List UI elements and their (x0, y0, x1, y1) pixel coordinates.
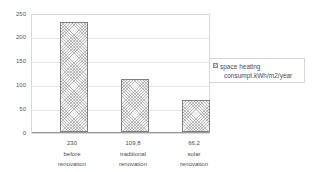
legend-label-line2: consumpt.kWh/m2/year (220, 71, 292, 80)
y-tick-label-0: 0 (2, 130, 26, 136)
y-tick-label-50: 50 (2, 106, 26, 112)
y-tick-label-200: 200 (2, 34, 26, 40)
category-label-traditional-renovation: 109,8 traditional renovation (103, 138, 163, 170)
category-value-2: 109,8 (103, 138, 163, 149)
legend-label-line1: space heating (220, 62, 292, 71)
category-name-3-line2: renovation (164, 159, 224, 170)
legend-swatch-icon (213, 63, 218, 68)
legend-entry-space-heating: space heating consumpt.kWh/m2/year (213, 62, 301, 80)
category-label-solar-renovation: 66,2 solar renovation (164, 138, 224, 170)
category-name-3-line1: solar (164, 149, 224, 160)
chart-legend: space heating consumpt.kWh/m2/year (209, 58, 305, 83)
category-name-1-line2: renovation (42, 159, 102, 170)
bar-solar-renovation[interactable] (182, 100, 210, 132)
category-value-3: 66,2 (164, 138, 224, 149)
legend-label: space heating consumpt.kWh/m2/year (220, 62, 292, 80)
category-value-1: 230 (42, 138, 102, 149)
y-tick-label-150: 150 (2, 58, 26, 64)
bar-before-renovation[interactable] (60, 22, 88, 132)
category-label-before-renovation: 230 before renovation (42, 138, 102, 170)
gridline-200 (32, 38, 209, 39)
bar-traditional-renovation[interactable] (121, 79, 149, 132)
category-name-1-line1: before (42, 149, 102, 160)
y-tick-label-250: 250 (2, 11, 26, 17)
y-tick-label-100: 100 (2, 82, 26, 88)
bar-chart-figure: 250 200 150 100 50 0 230 before renovati… (0, 0, 312, 172)
category-name-2-line1: traditional (103, 149, 163, 160)
plot-area (31, 14, 210, 134)
gridline-150 (32, 62, 209, 63)
x-axis-baseline (32, 132, 209, 133)
category-name-2-line2: renovation (103, 159, 163, 170)
